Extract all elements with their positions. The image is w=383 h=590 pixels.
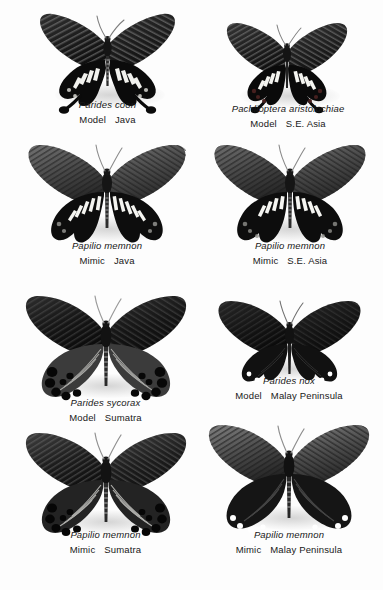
role-label: Mimic (70, 544, 96, 555)
locality-label: Malay Peninsula (270, 544, 342, 555)
role-locality-line: MimicSumatra (8, 545, 203, 555)
role-label: Mimic (236, 544, 262, 555)
specimen-image-parides-nox (203, 294, 375, 384)
specimen-image-pachlioptera-aristolochiae (205, 18, 370, 113)
specimen-parides-nox (203, 294, 375, 384)
mimicry-plate: Parides coon ModelJava (0, 0, 383, 590)
role-label: Mimic (253, 255, 279, 266)
specimen-image-papilio-memnon-sumatra (8, 424, 203, 539)
specimen-parides-sycorax (8, 286, 203, 404)
specimen-image-papilio-memnon-java (12, 136, 202, 248)
specimen-papilio-memnon-malay (193, 414, 383, 536)
locality-label: S.E. Asia (286, 118, 326, 129)
locality-label: Java (115, 114, 136, 125)
specimen-image-papilio-memnon-malay (193, 414, 383, 536)
role-locality-line: MimicJava (12, 256, 202, 266)
locality-label: Malay Peninsula (271, 390, 343, 401)
role-locality-line: ModelS.E. Asia (203, 119, 373, 129)
specimen-pachlioptera-aristolochiae (205, 18, 370, 113)
role-label: Model (69, 412, 96, 423)
role-label: Mimic (79, 255, 105, 266)
locality-label: Java (114, 255, 135, 266)
role-locality-line: ModelMalay Peninsula (203, 391, 375, 401)
locality-label: S.E. Asia (287, 255, 327, 266)
role-label: Model (250, 118, 277, 129)
role-locality-line: ModelJava (20, 115, 195, 125)
specimen-parides-coon (20, 8, 195, 113)
specimen-papilio-memnon-se-asia (200, 136, 380, 248)
specimen-image-papilio-memnon-se-asia (200, 136, 380, 248)
locality-label: Sumatra (105, 412, 142, 423)
role-locality-line: MimicMalay Peninsula (193, 545, 383, 555)
specimen-papilio-memnon-java (12, 136, 202, 248)
role-locality-line: ModelSumatra (8, 413, 203, 423)
role-label: Model (235, 390, 262, 401)
specimen-image-parides-sycorax (8, 286, 203, 404)
role-label: Model (79, 114, 106, 125)
specimen-image-parides-coon (20, 8, 195, 113)
role-locality-line: MimicS.E. Asia (200, 256, 380, 266)
specimen-papilio-memnon-sumatra (8, 424, 203, 539)
locality-label: Sumatra (104, 544, 141, 555)
